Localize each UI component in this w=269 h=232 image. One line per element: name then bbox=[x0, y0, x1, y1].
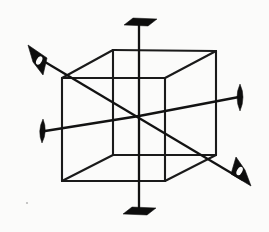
figure-root bbox=[0, 0, 269, 232]
cube-edge-front-top bbox=[113, 50, 216, 51]
cube-symmetry-axes-figure bbox=[0, 0, 269, 232]
paper-speck bbox=[26, 202, 28, 204]
